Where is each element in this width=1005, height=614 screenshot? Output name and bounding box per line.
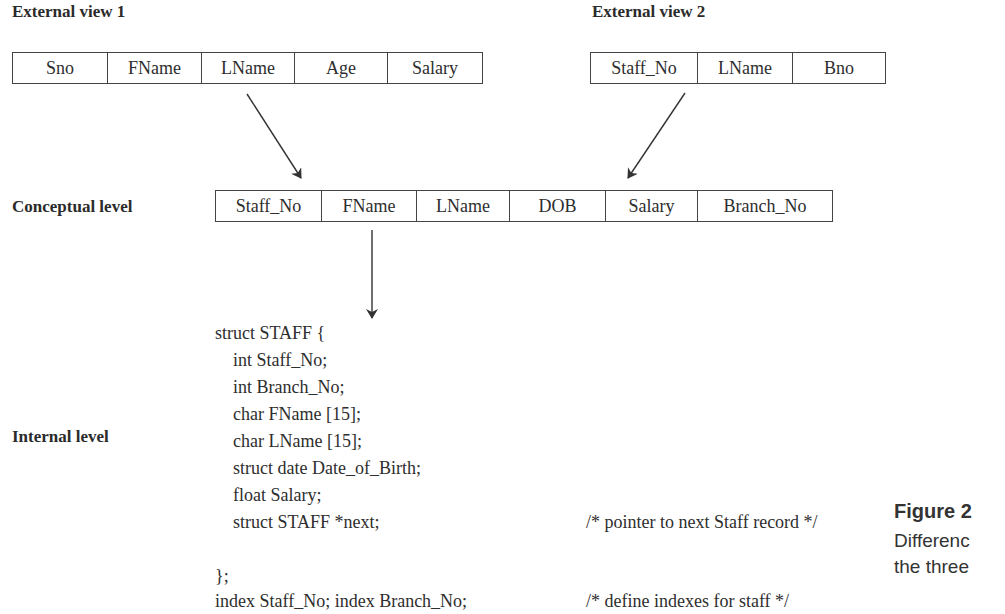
figure-caption-line2: the three [894,556,969,577]
figure-title: Figure 2 [894,500,972,523]
arrow-external1-to-conceptual [247,94,301,178]
code-comment-next-pointer: /* pointer to next Staff record */ [586,509,818,536]
code-line: index Staff_No; index Branch_No; [215,588,467,614]
code-line: char LName [15]; [215,428,362,455]
figure-caption: Differenc the three [894,528,970,580]
code-line: float Salary; [215,482,321,509]
arrow-external2-to-conceptual [628,93,685,178]
code-line: int Branch_No; [215,374,344,401]
code-comment-indexes: /* define indexes for staff */ [586,588,789,614]
code-line: struct STAFF *next; [215,509,380,536]
figure-caption-line1: Differenc [894,530,970,551]
code-line: int Staff_No; [215,347,327,374]
code-line: }; [215,563,229,590]
code-line: char FName [15]; [215,401,361,428]
code-line: struct date Date_of_Birth; [215,455,421,482]
code-line: struct STAFF { [215,320,325,347]
